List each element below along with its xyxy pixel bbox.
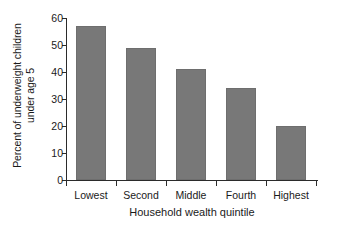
y-tick-label-0: 0 — [57, 175, 63, 186]
x-tick-label-lowest: Lowest — [74, 190, 107, 201]
y-axis-label-line-1: Percent of underweight children — [11, 23, 24, 168]
x-tick-label-second: Second — [123, 190, 159, 201]
x-tick-boundary-4 — [266, 181, 267, 186]
y-tick-label-50: 50 — [51, 40, 63, 51]
x-tick-boundary-0 — [66, 181, 67, 186]
bar-highest — [276, 126, 306, 180]
y-axis-label: Percent of underweight children under ag… — [0, 0, 46, 190]
bar-middle — [176, 69, 206, 180]
x-tick-boundary-1 — [116, 181, 117, 186]
x-axis-line — [66, 180, 318, 181]
x-tick-label-fourth: Fourth — [226, 190, 256, 201]
y-tick-label-20: 20 — [51, 121, 63, 132]
x-tick-boundary-3 — [216, 181, 217, 186]
x-tick-boundary-5 — [316, 181, 317, 186]
y-tick-label-30: 30 — [51, 94, 63, 105]
y-tick-label-40: 40 — [51, 67, 63, 78]
plot-area: 0 10 20 30 40 50 60 — [66, 14, 318, 184]
x-tick-label-middle: Middle — [176, 190, 207, 201]
bar-lowest — [76, 26, 106, 180]
y-axis-label-line-2: under age 5 — [23, 23, 36, 168]
bar-fourth — [226, 88, 256, 180]
x-axis-label: Household wealth quintile — [66, 206, 318, 218]
x-tick-label-highest: Highest — [273, 190, 309, 201]
bar-second — [126, 48, 156, 180]
y-tick-label-60: 60 — [51, 13, 63, 24]
y-tick-label-10: 10 — [51, 148, 63, 159]
x-tick-boundary-2 — [166, 181, 167, 186]
bar-chart-figure: Percent of underweight children under ag… — [0, 0, 346, 233]
